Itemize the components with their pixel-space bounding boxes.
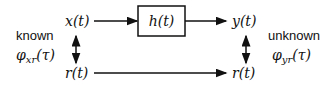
unknown-correlation-label: φyr(τ) (272, 47, 311, 65)
reference-signal-right-label: r(t) (232, 65, 255, 81)
unknown-label: unknown (268, 28, 320, 43)
known-correlation-label: φxr(τ) (16, 47, 55, 65)
output-signal-label: y(t) (231, 13, 256, 29)
reference-signal-left-label: r(t) (65, 65, 88, 81)
system-label: h(t) (149, 13, 175, 29)
diagram-canvas: x(t) h(t) y(t) r(t) r(t) known φxr(τ) un… (0, 0, 326, 88)
input-signal-label: x(t) (65, 13, 89, 29)
known-label: known (16, 28, 54, 43)
